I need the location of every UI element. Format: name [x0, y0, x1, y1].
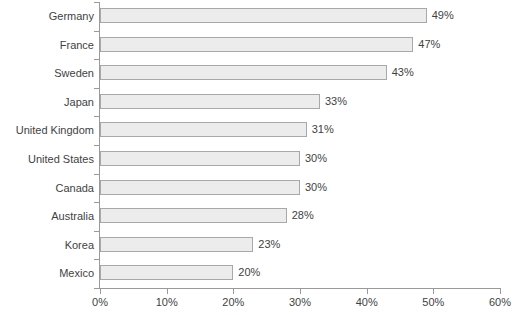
- bar-chart: GermanyFranceSwedenJapanUnited KingdomUn…: [0, 0, 515, 315]
- y-axis-tick: [94, 2, 100, 3]
- bar: [100, 180, 300, 195]
- bar-row: 49%: [100, 2, 500, 31]
- bar-row: 33%: [100, 88, 500, 117]
- x-axis-tick-label: 60%: [470, 296, 515, 308]
- bar: [100, 237, 253, 252]
- bar: [100, 151, 300, 166]
- y-axis-tick: [94, 231, 100, 232]
- bar-row: 31%: [100, 116, 500, 145]
- bar-value-label: 43%: [387, 65, 414, 80]
- y-axis-tick: [94, 31, 100, 32]
- bar-row: 30%: [100, 174, 500, 203]
- x-axis-tick-label: 50%: [403, 296, 463, 308]
- x-axis-tick: [433, 288, 434, 294]
- bar-value-label: 28%: [287, 208, 314, 223]
- x-axis-tick-label: 10%: [137, 296, 197, 308]
- x-axis-tick-label: 40%: [337, 296, 397, 308]
- bar-row: 47%: [100, 31, 500, 60]
- category-label: United States: [0, 145, 94, 174]
- category-label: Mexico: [0, 259, 94, 288]
- y-axis-tick: [94, 174, 100, 175]
- category-label: Sweden: [0, 59, 94, 88]
- x-axis-tick: [300, 288, 301, 294]
- bar: [100, 65, 387, 80]
- x-axis-tick-label: 30%: [270, 296, 330, 308]
- bar-value-label: 20%: [233, 265, 260, 280]
- x-axis-tick: [500, 288, 501, 294]
- bar-value-label: 49%: [427, 8, 454, 23]
- category-label: Canada: [0, 174, 94, 203]
- y-axis-tick: [94, 202, 100, 203]
- plot-area: 49%47%43%33%31%30%30%28%23%20%: [100, 2, 500, 288]
- bar-value-label: 30%: [300, 180, 327, 195]
- bar: [100, 8, 427, 23]
- bar-value-label: 47%: [413, 37, 440, 52]
- x-axis-tick: [367, 288, 368, 294]
- category-label: France: [0, 31, 94, 60]
- x-axis-tick: [167, 288, 168, 294]
- bar-value-label: 31%: [307, 122, 334, 137]
- bar: [100, 94, 320, 109]
- bar: [100, 122, 307, 137]
- category-axis-labels: GermanyFranceSwedenJapanUnited KingdomUn…: [0, 2, 94, 288]
- x-axis-tick-label: 20%: [203, 296, 263, 308]
- bar-value-label: 33%: [320, 94, 347, 109]
- bar: [100, 265, 233, 280]
- category-label: Korea: [0, 231, 94, 260]
- x-axis-tick-label: 0%: [70, 296, 130, 308]
- bar-row: 23%: [100, 231, 500, 260]
- bar-row: 43%: [100, 59, 500, 88]
- x-axis-tick: [233, 288, 234, 294]
- y-axis-tick: [94, 59, 100, 60]
- category-label: Japan: [0, 88, 94, 117]
- category-label: Australia: [0, 202, 94, 231]
- bar-row: 30%: [100, 145, 500, 174]
- x-axis-tick: [100, 288, 101, 294]
- bar: [100, 208, 287, 223]
- y-axis-tick: [94, 88, 100, 89]
- y-axis-tick: [94, 145, 100, 146]
- y-axis-tick: [94, 259, 100, 260]
- bar-value-label: 30%: [300, 151, 327, 166]
- bar-value-label: 23%: [253, 237, 280, 252]
- category-label: Germany: [0, 2, 94, 31]
- category-label: United Kingdom: [0, 116, 94, 145]
- bar-row: 20%: [100, 259, 500, 288]
- bar: [100, 37, 413, 52]
- bar-row: 28%: [100, 202, 500, 231]
- y-axis-tick: [94, 116, 100, 117]
